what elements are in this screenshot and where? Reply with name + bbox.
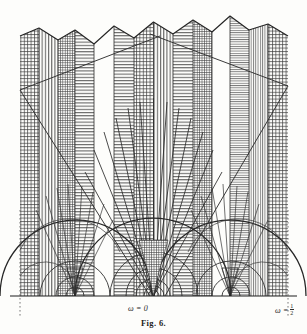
figure-plate: ω = 0 ω =12 Fig. 6. [0,0,307,334]
tessellation-drawing [0,0,307,334]
